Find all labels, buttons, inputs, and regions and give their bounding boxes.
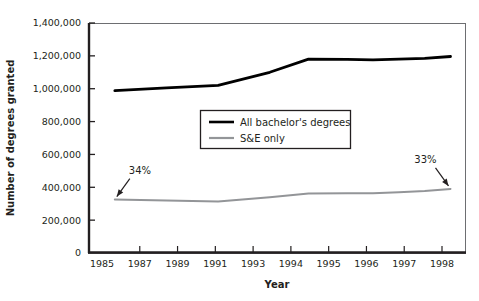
x-tick-label: 1993: [241, 258, 265, 269]
y-tick-label: 600,000: [42, 149, 81, 160]
annotation-label: 34%: [129, 165, 151, 176]
annotation-label: 33%: [414, 154, 436, 165]
x-axis-tick-labels: 1985198719891991199319941995199619971998: [90, 258, 454, 269]
x-tick-label: 1987: [128, 258, 152, 269]
x-tick-label: 1995: [317, 258, 341, 269]
x-tick-label: 1998: [430, 258, 454, 269]
chart-legend: All bachelor's degrees S&E only: [201, 111, 351, 149]
y-tick-label: 400,000: [42, 182, 81, 193]
y-axis-title: Number of degrees granted: [5, 60, 16, 217]
x-tick-label: 1997: [392, 258, 416, 269]
chart-container: 1,400,0001,200,0001,000,000800,000600,00…: [0, 0, 479, 301]
y-tick-label: 0: [75, 247, 81, 258]
x-axis-title: Year: [264, 279, 290, 290]
y-tick-label: 1,400,000: [33, 17, 81, 28]
legend-label-se-only: S&E only: [240, 133, 285, 144]
legend-label-all-bachelors: All bachelor's degrees: [240, 117, 350, 128]
y-tick-label: 1,200,000: [33, 50, 81, 61]
line-chart: 1,400,0001,200,0001,000,000800,000600,00…: [0, 0, 479, 301]
y-tick-label: 800,000: [42, 116, 81, 127]
x-tick-label: 1991: [203, 258, 227, 269]
x-tick-label: 1985: [90, 258, 114, 269]
x-tick-label: 1994: [279, 258, 303, 269]
y-axis-tick-labels: 1,400,0001,200,0001,000,000800,000600,00…: [33, 17, 81, 258]
x-tick-label: 1996: [354, 258, 378, 269]
x-tick-label: 1989: [165, 258, 189, 269]
y-tick-label: 1,000,000: [33, 83, 81, 94]
y-tick-label: 200,000: [42, 215, 81, 226]
